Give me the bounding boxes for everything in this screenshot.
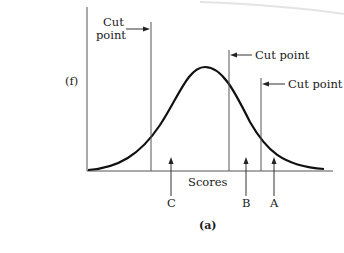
cut-point-1-label-line1: Cut (103, 15, 124, 29)
arrow-right-icon (126, 27, 150, 32)
score-marker-b-label: B (242, 196, 250, 210)
arrow-up-icon-b (244, 157, 249, 196)
arrow-left-icon (262, 82, 285, 87)
figure-caption: (a) (199, 219, 217, 232)
score-marker-c-label: C (167, 196, 176, 210)
scan-artifact-line (200, 2, 344, 14)
arrow-up-icon-a (272, 157, 277, 196)
arrow-left-icon (230, 53, 252, 58)
x-axis-label: Scores (188, 175, 228, 189)
cut-point-3-label: Cut point (288, 77, 343, 91)
cut-point-2-label: Cut point (255, 48, 310, 62)
arrow-up-icon-c (169, 157, 174, 196)
normal-curve-figure: (f) Cut point Cut point Cut point Scores… (0, 0, 344, 253)
score-marker-a-label: A (269, 196, 279, 210)
cut-point-1-label-line2: point (96, 28, 126, 42)
y-axis-label: (f) (65, 74, 78, 88)
